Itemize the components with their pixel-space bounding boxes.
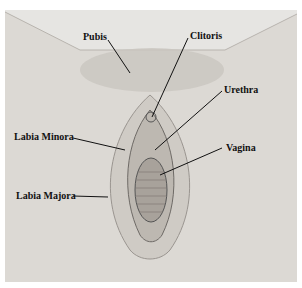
- label-labia-majora: Labia Majora: [16, 190, 76, 201]
- label-pubis: Pubis: [83, 31, 107, 42]
- label-labia-minora: Labia Minora: [14, 131, 74, 142]
- label-vagina: Vagina: [226, 142, 256, 153]
- label-urethra: Urethra: [224, 84, 258, 95]
- anatomy-illustration: [0, 0, 302, 288]
- label-clitoris: Clitoris: [190, 30, 222, 41]
- diagram-root: Pubis Clitoris Urethra Labia Minora Vagi…: [0, 0, 302, 288]
